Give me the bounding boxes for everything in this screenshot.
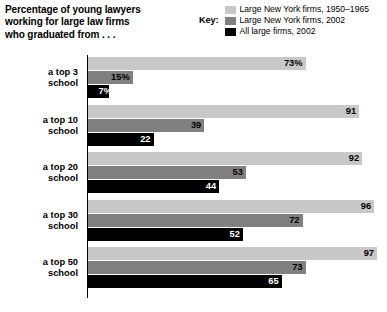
bar-value-label: 97 — [353, 247, 374, 260]
bar-value-label: 73% — [282, 57, 303, 70]
bar[interactable] — [88, 247, 377, 260]
bar[interactable] — [88, 57, 306, 70]
bar-value-label: 39 — [180, 119, 201, 132]
bar-value-label: 96 — [350, 200, 371, 213]
category-axis-label: a top 10 school — [0, 115, 78, 137]
category-axis-label: a top 50 school — [0, 257, 78, 279]
bar-value-label: 73 — [282, 261, 303, 274]
bar[interactable] — [88, 152, 362, 165]
bar[interactable] — [88, 261, 306, 274]
bar-value-label: 44 — [195, 180, 216, 193]
bar-value-label: 15% — [109, 71, 130, 84]
bar-chart-plot: a top 3 school73%15%7%a top 10 school913… — [0, 0, 387, 312]
bar-value-label: 52 — [219, 228, 240, 241]
bar-value-label: 91 — [335, 105, 356, 118]
category-axis-label: a top 30 school — [0, 210, 78, 232]
bar[interactable] — [88, 200, 374, 213]
category-axis-label: a top 3 school — [0, 67, 78, 89]
bar[interactable] — [88, 214, 303, 227]
bar-value-label: 53 — [222, 166, 243, 179]
bar-value-label: 7% — [91, 85, 112, 98]
bar[interactable] — [88, 275, 282, 288]
bar[interactable] — [88, 105, 359, 118]
bar-value-label: 65 — [258, 275, 279, 288]
bar-value-label: 72 — [279, 214, 300, 227]
category-axis-label: a top 20 school — [0, 162, 78, 184]
bar-value-label: 22 — [130, 133, 151, 146]
bar-value-label: 92 — [338, 152, 359, 165]
